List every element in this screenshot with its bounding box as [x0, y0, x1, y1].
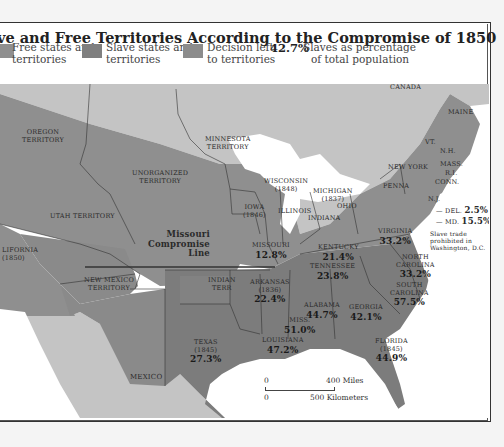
- label-illinois: ILLINOIS: [278, 208, 311, 216]
- label-new-york: NEW YORK: [388, 164, 428, 172]
- label-oregon: OREGONTERRITORY: [22, 129, 64, 144]
- label-minnesota: MINNESOTATERRITORY: [205, 136, 251, 151]
- label-missouri: MISSOURI12.8%: [252, 242, 290, 260]
- scale-bar: 0 400 Miles 0 500 Kilometers: [258, 376, 378, 416]
- legend-swatch-slave: [82, 44, 102, 58]
- label-mass: MASS.: [440, 161, 463, 169]
- label-florida: FLORIDA(1845)44.9%: [375, 338, 408, 363]
- label-ohio: OHIO: [337, 203, 357, 211]
- scale-miles: 400 Miles: [326, 376, 363, 385]
- label-mexico: MEXICO: [130, 374, 162, 382]
- label-missouri-compromise-line: MissouriCompromiseLine: [148, 230, 210, 259]
- label-miss: MISS.51.0%: [284, 317, 315, 335]
- label-ri: R.I.: [445, 170, 457, 178]
- label-new-mexico: NEW MEXICOTERRITORY: [84, 277, 134, 292]
- legend-label-slave: Slave states andterritories: [106, 41, 193, 65]
- label-tennessee: TENNESSEE23.8%: [310, 263, 355, 281]
- label-utah: UTAH TERRITORY: [50, 213, 115, 221]
- label-conn: CONN.: [435, 179, 459, 187]
- label-md: — MD. 15.5%: [436, 218, 489, 227]
- legend: Free states andterritories Slave states …: [0, 41, 500, 77]
- label-arkansas: ARKANSAS(1836)22.4%: [250, 279, 290, 304]
- label-georgia: GEORGIA42.1%: [349, 304, 383, 322]
- scale-km: 500 Kilometers: [310, 393, 368, 402]
- label-nh: N.H.: [440, 148, 456, 156]
- label-indian-territory: INDIANTERR: [208, 277, 236, 292]
- label-unorganized: UNORGANIZEDTERRITORY: [132, 170, 188, 185]
- label-wisconsin: WISCONSIN(1848): [264, 178, 308, 193]
- label-penna: PENNA: [383, 183, 409, 191]
- scale-zero-km: 0: [264, 393, 269, 402]
- label-del: — DEL. 2.5%: [436, 207, 488, 216]
- label-maine: MAINE: [448, 109, 473, 117]
- label-texas: TEXAS(1845)27.3%: [190, 339, 221, 364]
- label-kentucky: KENTUCKY21.4%: [318, 244, 359, 262]
- label-nj: N.J.: [428, 196, 440, 204]
- label-south-carolina: SOUTHCAROLINA57.5%: [390, 282, 429, 307]
- label-dc-note: Slave tradeprohibited inWashington, D.C.: [430, 230, 485, 251]
- scale-zero-miles: 0: [264, 376, 269, 385]
- label-canada: CANADA: [390, 84, 421, 92]
- label-michigan: MICHIGAN(1837): [313, 188, 353, 203]
- label-vt: VT.: [425, 139, 436, 147]
- label-iowa: IOWA(1846): [243, 204, 266, 219]
- label-indiana: INDIANA: [308, 215, 341, 223]
- legend-label-pct: Slaves as percentageof total population: [303, 41, 416, 65]
- map-area: CANADA MEXICO OREGONTERRITORY MINNESOTAT…: [0, 84, 489, 418]
- legend-swatch-undecided: [183, 44, 203, 58]
- label-virginia: VIRGINIA33.2%: [378, 228, 412, 246]
- legend-label-undecided: Decision leftto territories: [207, 41, 275, 65]
- label-north-carolina: NORTHCAROLINA33.2%: [396, 254, 435, 279]
- label-california: LIFORNIA(1850): [2, 247, 38, 262]
- label-louisiana: LOUISIANA47.2%: [262, 337, 304, 355]
